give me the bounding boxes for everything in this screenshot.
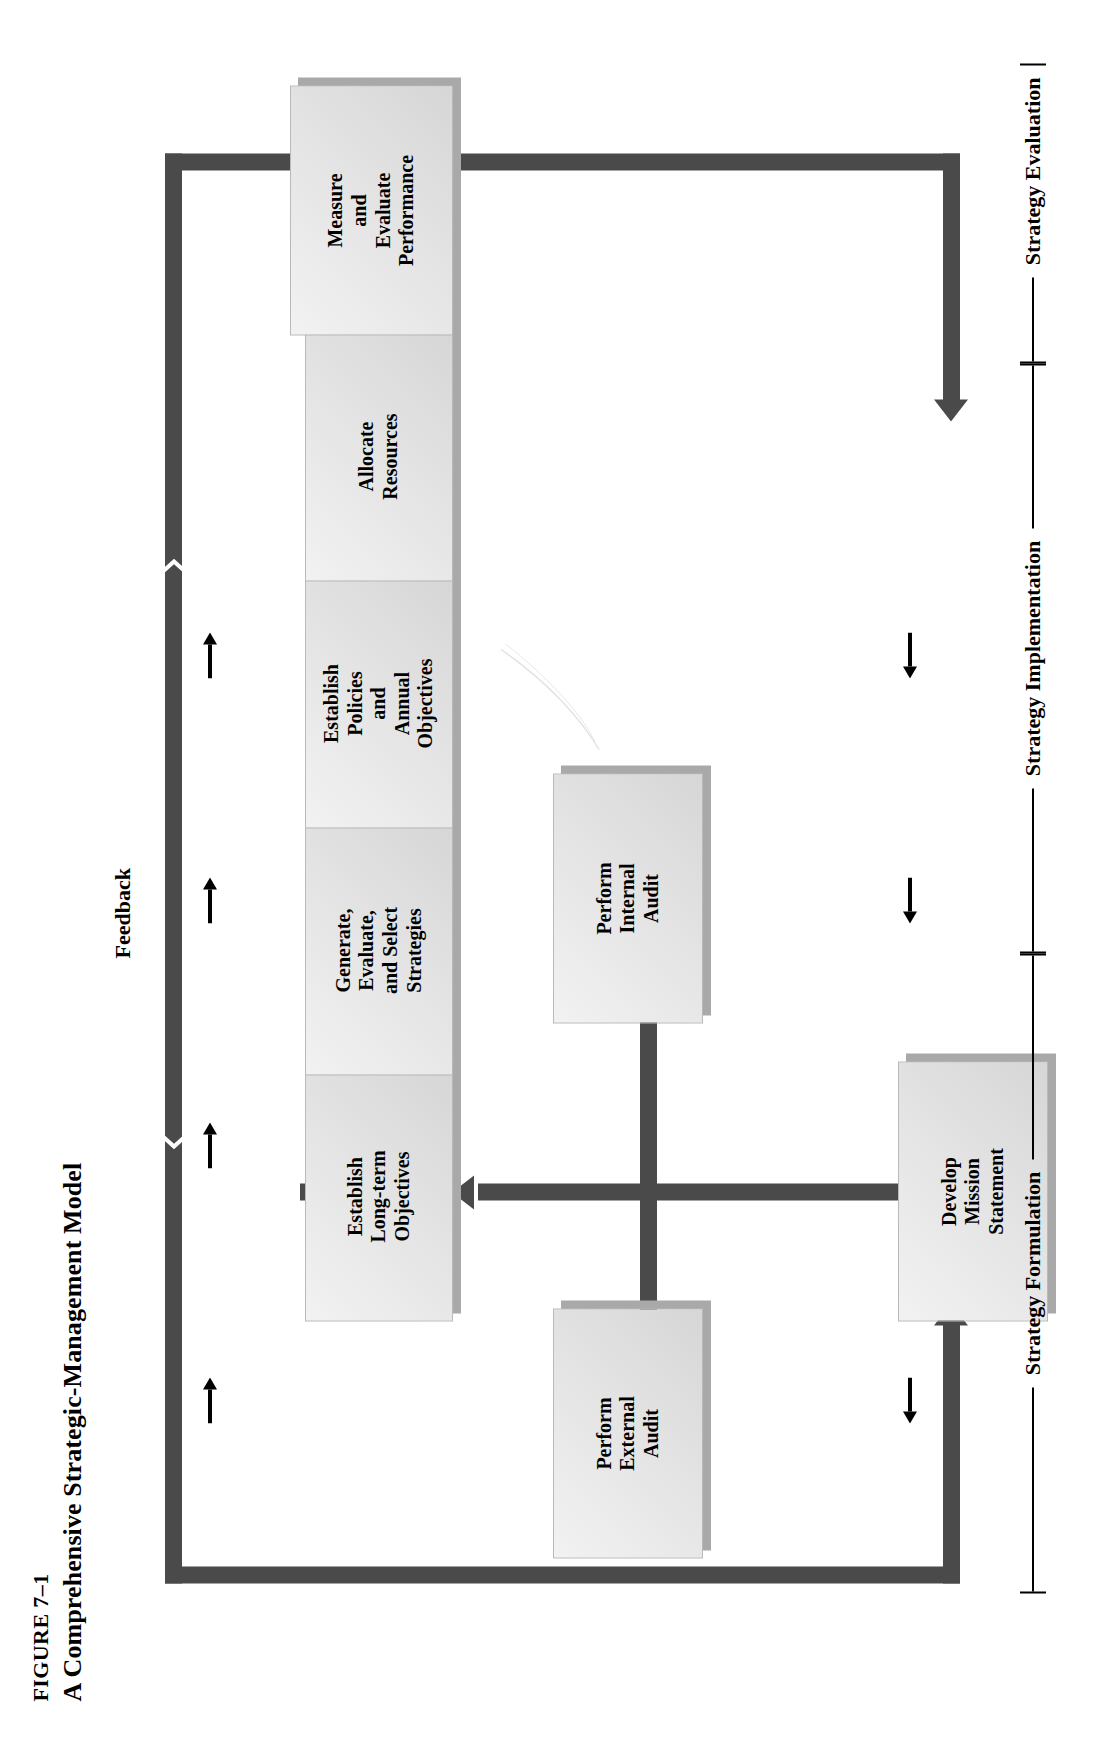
feedback-tick-arrow-icon — [200, 1377, 220, 1423]
feedback-loop-arrowhead-return — [934, 399, 968, 421]
figure-title: A Comprehensive Strategic-Management Mod… — [58, 1162, 88, 1701]
node-generate-evaluate-select-strategies[interactable]: Generate, Evaluate, and Select Strategie… — [305, 825, 453, 1075]
node-line: Perform — [593, 1396, 617, 1470]
node-establish-long-term-objectives[interactable]: Establish Long-term Objectives — [305, 1071, 453, 1321]
feedback-tick-arrow-icon — [200, 632, 220, 678]
node-perform-external-audit[interactable]: Perform External Audit — [553, 1308, 703, 1558]
figure-canvas: FIGURE 7–1 A Comprehensive Strategic-Man… — [0, 0, 1094, 1753]
feedback-loop-left — [165, 1566, 960, 1583]
feedback-loop-bottom-right — [943, 153, 960, 403]
node-line: Establish — [344, 1150, 368, 1242]
node-line: Policies — [344, 658, 368, 748]
node-line: Long-term — [367, 1150, 391, 1242]
node-line: Annual — [391, 658, 415, 748]
node-line: and Select — [379, 906, 403, 993]
node-line: Audit — [640, 862, 664, 934]
node-measure-evaluate-performance[interactable]: Measure and Evaluate Performance — [290, 85, 453, 335]
node-line: Resources — [379, 413, 403, 499]
bracket-rule — [1032, 365, 1034, 528]
node-line: Objectives — [391, 1150, 415, 1242]
feedback-chevron-right-icon — [152, 557, 196, 583]
feedback-loop-right — [165, 153, 960, 170]
return-tick-arrow-icon — [900, 877, 920, 923]
node-line: Develop — [938, 1148, 962, 1235]
node-line: Generate, — [332, 906, 356, 993]
bracket-strategy-implementation: Strategy Implementation — [1020, 363, 1046, 953]
feedback-loop-top — [165, 153, 182, 1583]
node-line: Objectives — [414, 658, 438, 748]
return-tick-arrow-icon — [900, 632, 920, 678]
node-line: Statement — [985, 1148, 1009, 1235]
connector-mission-to-junction — [478, 1183, 898, 1200]
node-line: Mission — [961, 1148, 985, 1235]
node-line: Evaluate — [372, 154, 396, 265]
figure-number: FIGURE 7–1 — [28, 1162, 54, 1701]
connector-arrowhead-to-long-term-objectives — [452, 1175, 474, 1209]
node-perform-internal-audit[interactable]: Perform Internal Audit — [553, 773, 703, 1023]
bracket-label: Strategy Formulation — [1020, 1159, 1046, 1386]
bracket-strategy-formulation: Strategy Formulation — [1020, 953, 1046, 1593]
node-line: Measure — [324, 154, 348, 265]
node-establish-policies-annual-objectives[interactable]: Establish Policies and Annual Objectives — [305, 578, 453, 828]
feedback-chevron-icon — [152, 1124, 196, 1150]
node-line: Allocate — [355, 413, 379, 499]
node-line: Performance — [395, 154, 419, 265]
bracket-label: Strategy Evaluation — [1020, 65, 1046, 277]
node-line: Establish — [320, 658, 344, 748]
scan-smudge — [495, 623, 605, 753]
feedback-label: Feedback — [110, 868, 136, 958]
node-line: Strategies — [403, 906, 427, 993]
feedback-tick-arrow-icon — [200, 877, 220, 923]
node-line: and — [348, 154, 372, 265]
node-line: External — [616, 1396, 640, 1470]
figure-caption: FIGURE 7–1 A Comprehensive Strategic-Man… — [28, 1162, 88, 1701]
bracket-rule — [1032, 955, 1034, 1159]
bracket-rule — [1032, 1387, 1034, 1591]
node-line: Evaluate, — [355, 906, 379, 993]
return-tick-arrow-icon — [900, 1377, 920, 1423]
node-line: Perform — [593, 862, 617, 934]
bracket-rule — [1032, 788, 1034, 951]
bracket-cap — [1020, 63, 1046, 65]
node-line: Internal — [616, 862, 640, 934]
bracket-label: Strategy Implementation — [1020, 528, 1046, 787]
node-line: Audit — [640, 1396, 664, 1470]
node-line: and — [367, 658, 391, 748]
bracket-strategy-evaluation: Strategy Evaluation — [1020, 63, 1046, 363]
bracket-rule — [1032, 277, 1034, 361]
feedback-loop-bottom — [943, 1321, 960, 1583]
node-allocate-resources[interactable]: Allocate Resources — [305, 331, 453, 581]
feedback-tick-arrow-icon — [200, 1122, 220, 1168]
